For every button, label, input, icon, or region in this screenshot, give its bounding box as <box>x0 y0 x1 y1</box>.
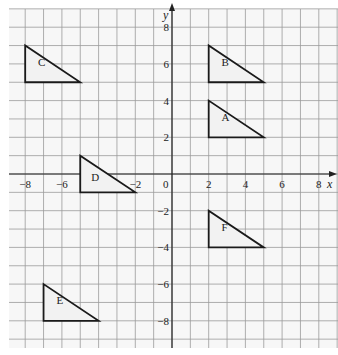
y-tick-label: −2 <box>157 205 169 217</box>
x-tick-label: −8 <box>19 178 31 190</box>
triangle-label: E <box>56 294 63 306</box>
coordinate-grid: xy0−8−6−4−224688642−2−4−6−8 ABCDEF <box>0 0 338 355</box>
y-tick-label: −6 <box>157 278 169 290</box>
y-tick-label: −8 <box>157 315 169 327</box>
x-tick-label: 2 <box>206 178 212 190</box>
y-tick-label: 8 <box>164 21 170 33</box>
y-tick-label: 6 <box>164 58 170 70</box>
origin-label: 0 <box>163 178 169 190</box>
triangle-label: F <box>222 221 228 233</box>
y-tick-label: −4 <box>157 241 169 253</box>
x-tick-label: 6 <box>279 178 285 190</box>
x-tick-label: 4 <box>243 178 249 190</box>
x-axis-label: x <box>326 177 333 191</box>
y-tick-label: 2 <box>164 131 170 143</box>
y-tick-label: 4 <box>164 95 170 107</box>
x-tick-label: −2 <box>129 178 141 190</box>
triangle-label: D <box>91 171 99 183</box>
triangle-label: C <box>38 56 45 68</box>
x-tick-label: −6 <box>56 178 68 190</box>
y-axis-arrow-icon <box>169 3 175 11</box>
triangle-label: B <box>222 56 229 68</box>
x-tick-label: 8 <box>316 178 322 190</box>
triangle-label: A <box>222 111 230 123</box>
y-axis-label: y <box>162 8 169 22</box>
